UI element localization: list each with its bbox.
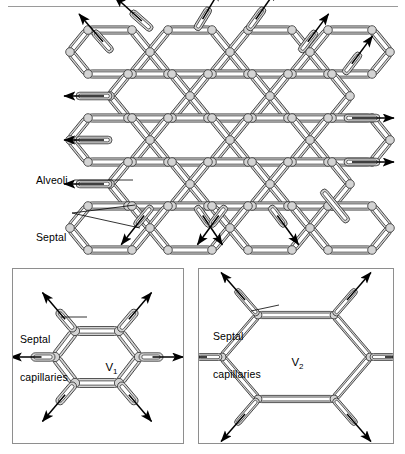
septal-junction <box>186 92 195 101</box>
septal-junction <box>84 70 93 79</box>
panel-v2-volume-label: V2 <box>285 344 304 371</box>
septal-junction <box>164 202 173 211</box>
septal-junction <box>128 114 137 123</box>
septal-junction <box>386 136 395 145</box>
septal-junction <box>226 48 235 57</box>
septal-junction <box>328 70 337 79</box>
flow-arrow <box>347 414 371 442</box>
septal-junction <box>66 48 75 57</box>
septal-junction <box>324 246 333 255</box>
panel-v1-caption-line1: Septal <box>20 333 68 346</box>
septal-junction <box>146 224 155 233</box>
septal-capillary-segment <box>168 26 212 34</box>
septal-junction <box>186 180 195 189</box>
flow-arrow <box>42 395 65 422</box>
septal-junction <box>124 158 133 167</box>
flow-arrow <box>129 395 152 422</box>
panel-v2-volume-sub: 2 <box>299 362 303 371</box>
septal-junction <box>146 48 155 57</box>
septal-junction <box>288 114 297 123</box>
septal-capillary-segment <box>75 327 119 336</box>
panel-v1-volume-sub: 1 <box>113 367 117 376</box>
flow-arrow <box>352 36 373 64</box>
septal-junction <box>128 246 137 255</box>
septal-junction <box>248 158 257 167</box>
septal-junction <box>284 158 293 167</box>
septal-junction <box>248 70 257 79</box>
septal-junction <box>368 70 377 79</box>
septal-junction <box>288 202 297 211</box>
septal-junction <box>266 180 275 189</box>
septal-junction <box>164 26 173 35</box>
flow-arrow <box>115 0 142 21</box>
panel-v2-volume-letter: V <box>291 356 299 368</box>
septal-junction <box>324 26 333 35</box>
septal-junction <box>84 158 93 167</box>
septal-capillary-segment <box>331 313 372 360</box>
septal-junction <box>204 158 213 167</box>
septal-capillary-segment <box>328 246 372 254</box>
septal-junction <box>124 70 133 79</box>
septal-capillary-segment <box>248 246 292 254</box>
septal-capillary-segment <box>331 355 372 402</box>
septal-capillary-segment <box>328 26 372 34</box>
septal-junction <box>368 246 377 255</box>
flow-arrow <box>129 293 152 320</box>
septal-junction <box>244 202 253 211</box>
septal-junction <box>164 114 173 123</box>
septal-junction <box>386 224 395 233</box>
label-alveoli: Alveoli <box>36 174 68 186</box>
panel-v1-caption: Septal capillaries <box>20 308 68 396</box>
septal-junction <box>168 158 177 167</box>
septal-junction <box>168 70 177 79</box>
septal-junction <box>226 224 235 233</box>
septal-junction <box>288 26 297 35</box>
septal-capillary-segment <box>258 395 334 402</box>
flow-arrow <box>221 414 245 442</box>
septal-junction <box>244 114 253 123</box>
panel-v1-volume-label: V1 <box>99 349 118 376</box>
septal-junction <box>226 136 235 145</box>
septal-capillary-segment <box>88 246 132 254</box>
septal-junction <box>84 202 93 211</box>
panel-v1-volume-letter: V <box>105 361 113 373</box>
panel-v2-caption-line2: capillaries <box>213 368 261 381</box>
septal-junction <box>368 202 377 211</box>
septal-junction <box>328 158 337 167</box>
septal-junction <box>346 180 355 189</box>
septal-junction <box>386 48 395 57</box>
septal-junction <box>244 246 253 255</box>
septal-junction <box>208 246 217 255</box>
septal-junction <box>208 202 217 211</box>
septal-junction <box>208 26 217 35</box>
septal-capillary-segment <box>75 379 119 388</box>
septal-junction <box>346 92 355 101</box>
septal-junction <box>164 246 173 255</box>
flow-arrow <box>347 272 371 300</box>
septal-junction <box>204 70 213 79</box>
septal-junction <box>306 224 315 233</box>
panel-v1-caption-line2: capillaries <box>20 371 68 384</box>
septal-capillary-segment <box>168 246 212 254</box>
septal-junction <box>128 26 137 35</box>
flow-arrow <box>221 272 245 300</box>
panel-v2-caption-line1: Septal <box>213 330 261 343</box>
flow-arrow <box>277 216 298 245</box>
septal-junction <box>208 114 217 123</box>
septal-junction <box>288 246 297 255</box>
septal-junction <box>84 114 93 123</box>
septal-junction <box>284 70 293 79</box>
septal-junction <box>324 114 333 123</box>
septal-junction <box>368 26 377 35</box>
septal-junction <box>266 92 275 101</box>
septal-junction <box>84 246 93 255</box>
panel-v2-caption: Septal capillaries <box>213 305 261 393</box>
septal-junction <box>306 136 315 145</box>
label-septal-capillaries-main-line1: Septal <box>36 231 84 244</box>
septal-capillary-segment <box>258 311 334 318</box>
septal-junction <box>146 136 155 145</box>
